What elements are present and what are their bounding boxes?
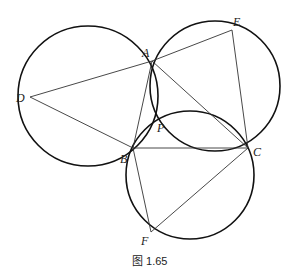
geometry-diagram: ABCDEFP [0, 0, 290, 250]
figure-caption: 图 1.65 [132, 252, 167, 268]
segment-DB [30, 97, 133, 148]
point-label-E: E [232, 15, 241, 29]
point-label-P: P [156, 121, 165, 135]
point-label-A: A [141, 46, 150, 60]
segment-EC [232, 30, 248, 148]
segment-AB [133, 61, 152, 148]
point-label-F: F [140, 234, 149, 248]
point-label-B: B [120, 152, 128, 166]
circle-ABD [18, 26, 158, 166]
point-label-D: D [15, 91, 25, 105]
circle-AEC [150, 21, 280, 151]
circle-BCF [126, 111, 254, 239]
point-label-C: C [253, 145, 262, 159]
segment-FC [151, 148, 248, 232]
segment-BF [133, 148, 151, 232]
segments-group [30, 30, 248, 232]
segment-AC [152, 61, 248, 148]
segment-DA [30, 61, 152, 97]
